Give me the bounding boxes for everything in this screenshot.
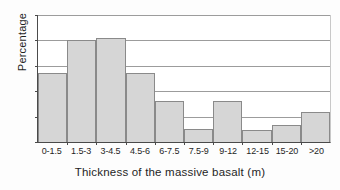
x-tick-mark <box>96 142 97 145</box>
x-tick-label: 3-4.5 <box>96 146 125 156</box>
bar <box>38 73 67 142</box>
x-tick-label: 15-20 <box>272 146 301 156</box>
bar-slot <box>155 15 184 142</box>
plot-area <box>37 15 331 143</box>
x-tick-label: >20 <box>302 146 331 156</box>
x-axis-tick-labels: 0-1.51.5-33-4.54.5-66-7.57.5-99-1212-151… <box>37 146 331 156</box>
bar-slot <box>126 15 155 142</box>
x-tick-label: 1.5-3 <box>66 146 95 156</box>
bar-slot <box>67 15 96 142</box>
bar <box>213 101 242 142</box>
bar <box>184 129 213 142</box>
x-tick-mark <box>213 142 214 145</box>
x-tick-label: 7.5-9 <box>184 146 213 156</box>
bar <box>242 130 271 142</box>
bar-slot <box>242 15 271 142</box>
histogram-figure: Percentage 0510152025 0-1.51.5-33-4.54.5… <box>0 0 340 190</box>
bar <box>301 112 330 142</box>
x-axis-title: Thickness of the massive basalt (m) <box>0 166 340 178</box>
bar <box>272 125 301 142</box>
x-tick-mark <box>67 142 68 145</box>
x-tick-label: 6-7.5 <box>155 146 184 156</box>
bar-series <box>38 15 330 142</box>
x-tick-label: 4.5-6 <box>125 146 154 156</box>
bar-slot <box>301 15 330 142</box>
bar-slot <box>184 15 213 142</box>
bar-slot <box>272 15 301 142</box>
x-tick-label: 12-15 <box>243 146 272 156</box>
bar-slot <box>96 15 125 142</box>
x-tick-mark <box>155 142 156 145</box>
y-tick-mark <box>35 142 38 143</box>
x-tick-mark <box>242 142 243 145</box>
bar-slot <box>38 15 67 142</box>
bar <box>155 101 184 142</box>
bar <box>67 40 96 142</box>
bar <box>96 38 125 142</box>
y-axis-title: Percentage <box>16 0 28 102</box>
bar-slot <box>213 15 242 142</box>
x-tick-label: 9-12 <box>213 146 242 156</box>
bar <box>126 73 155 142</box>
x-tick-label: 0-1.5 <box>37 146 66 156</box>
x-tick-mark <box>301 142 302 145</box>
x-tick-mark <box>184 142 185 145</box>
x-tick-mark <box>126 142 127 145</box>
x-tick-mark <box>272 142 273 145</box>
